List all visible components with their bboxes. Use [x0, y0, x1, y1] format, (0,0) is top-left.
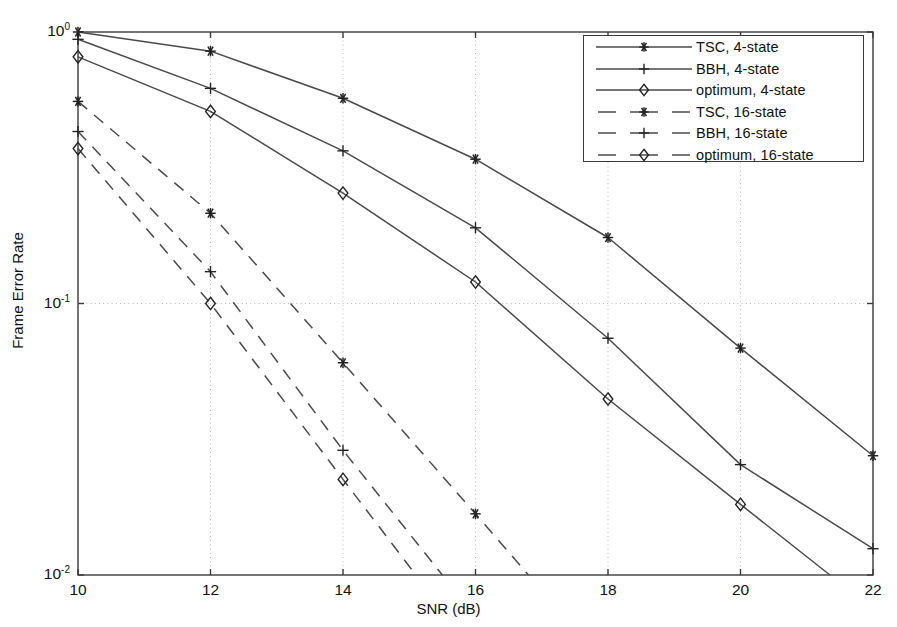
legend-sample-plus-icon: [592, 123, 696, 143]
x-tick-label: 14: [334, 581, 351, 599]
legend-label: optimum, 16-state: [696, 147, 814, 163]
series-line-3: [78, 101, 529, 575]
x-tick-label: 18: [599, 581, 616, 599]
legend-sample-plus-icon: [592, 59, 696, 79]
legend-label: TSC, 4-state: [696, 39, 779, 55]
legend-entry: TSC, 16-state: [584, 102, 863, 123]
x-axis-label: SNR (dB): [0, 600, 897, 617]
legend-sample-diamond-icon: [592, 145, 696, 165]
series-markers-3: [73, 96, 481, 519]
legend-label: TSC, 16-state: [696, 104, 787, 120]
legend-sample-diamond-icon: [592, 80, 696, 100]
series-line-4: [78, 132, 442, 575]
x-tick-label: 22: [864, 581, 881, 599]
x-tick-label: 10: [69, 581, 86, 599]
chart-legend: TSC, 4-stateBBH, 4-stateoptimum, 4-state…: [583, 35, 864, 162]
series-line-5: [78, 149, 416, 575]
y-tick-label: 10-2: [44, 564, 70, 583]
legend-label: BBH, 4-state: [696, 61, 779, 77]
legend-entry: optimum, 16-state: [584, 145, 863, 166]
x-tick-label: 12: [202, 581, 219, 599]
legend-entry: BBH, 4-state: [584, 59, 863, 80]
legend-entry: BBH, 16-state: [584, 123, 863, 144]
legend-label: optimum, 4-state: [696, 82, 806, 98]
y-tick-label: 10-1: [44, 293, 70, 312]
legend-entry: optimum, 4-state: [584, 80, 863, 101]
x-tick-label: 20: [732, 581, 749, 599]
x-tick-label: 16: [467, 581, 484, 599]
legend-sample-star-icon: [592, 37, 696, 57]
y-tick-label: 100: [47, 21, 70, 40]
legend-entry: TSC, 4-state: [584, 37, 863, 58]
legend-sample-star-icon: [592, 102, 696, 122]
chart-figure: Frame Error Rate SNR (dB) 10-210-1100 10…: [0, 0, 897, 627]
legend-label: BBH, 16-state: [696, 125, 788, 141]
